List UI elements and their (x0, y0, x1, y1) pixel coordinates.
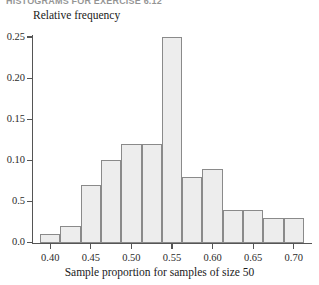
x-axis-tick-label: 0.55 (152, 252, 192, 263)
x-axis-tick (171, 243, 172, 249)
histogram-bar (182, 177, 202, 243)
x-axis-tick (253, 243, 254, 249)
y-axis-tick-label: 0.20 (1, 73, 25, 84)
y-axis-tick (27, 119, 33, 120)
histogram-bar (142, 144, 162, 243)
y-axis-line (32, 35, 33, 244)
histogram-bar (101, 160, 121, 242)
y-axis-tick (27, 160, 33, 161)
x-axis-tick (50, 243, 51, 249)
y-axis-tick-label: 0.15 (1, 114, 25, 125)
x-axis-tick-label: 0.50 (111, 252, 151, 263)
histogram-bar (162, 37, 182, 243)
y-axis-tick-label: 0.0 (1, 237, 25, 248)
y-axis-tick (27, 201, 33, 202)
x-axis-tick (293, 243, 294, 249)
histogram-bar (202, 169, 222, 243)
histogram-bar (81, 185, 101, 243)
y-axis-tick (27, 78, 33, 79)
x-axis-tick (131, 243, 132, 249)
x-axis-tick (90, 243, 91, 249)
histogram-bar (60, 226, 80, 242)
y-axis-tick-label: 0.10 (1, 155, 25, 166)
histogram-bar (284, 218, 304, 243)
histogram-plot: 0.00.50.100.150.200.25 0.400.450.500.550… (0, 0, 319, 285)
x-axis-tick-label: 0.60 (193, 252, 233, 263)
x-axis-tick-label: 0.45 (71, 252, 111, 263)
histogram-bar (121, 144, 141, 243)
y-axis-tick (27, 242, 33, 243)
x-axis-tick-label: 0.65 (233, 252, 273, 263)
histogram-bar (40, 234, 60, 242)
histogram-bar (263, 218, 283, 243)
x-axis-title: Sample proportion for samples of size 50 (0, 266, 319, 278)
x-axis-tick (212, 243, 213, 249)
x-axis-tick-label: 0.70 (274, 252, 314, 263)
histogram-bar (243, 210, 263, 243)
y-axis-tick-label: 0.25 (1, 32, 25, 43)
y-axis-tick-label: 0.5 (1, 196, 25, 207)
x-axis-tick-label: 0.40 (30, 252, 70, 263)
histogram-bar (223, 210, 243, 243)
y-axis-tick (27, 36, 33, 37)
